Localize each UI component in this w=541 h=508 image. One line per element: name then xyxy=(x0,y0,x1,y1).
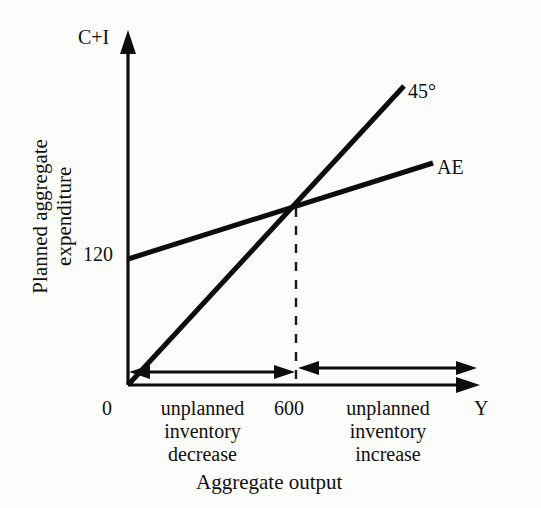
diagram-canvas xyxy=(0,0,541,508)
x-axis-symbol-label: Y xyxy=(474,397,488,420)
y-axis-symbol-label: C+I xyxy=(78,26,109,49)
ae-line xyxy=(128,163,433,259)
increase-note-line-3: increase xyxy=(318,443,458,466)
y-axis-title-line-2: expenditure xyxy=(52,101,76,331)
decrease-note-line-3: decrease xyxy=(140,443,265,466)
y-axis-title-line-1: Planned aggregate xyxy=(28,101,52,331)
forty-five-degree-line-label: 45° xyxy=(408,80,436,103)
y-axis xyxy=(120,30,136,385)
increase-note-line-2: inventory xyxy=(318,420,458,443)
x-tick-label-600: 600 xyxy=(274,397,304,420)
ae-line-label: AE xyxy=(437,156,464,179)
x-axis xyxy=(128,377,480,393)
unplanned-inventory-increase-arrow xyxy=(298,361,477,375)
y-axis-title: Planned aggregate expenditure xyxy=(28,101,77,331)
origin-label: 0 xyxy=(102,397,112,420)
unplanned-inventory-decrease-arrow xyxy=(129,365,295,379)
y-tick-label-120: 120 xyxy=(83,243,113,266)
x-axis-title: Aggregate output xyxy=(196,470,342,494)
forty-five-degree-line xyxy=(128,86,404,385)
decrease-note-line-2: inventory xyxy=(140,420,265,443)
aggregate-expenditure-diagram: C+I Y 45° AE 120 0 600 unplanned invento… xyxy=(0,0,541,508)
unplanned-inventory-decrease-label: unplanned inventory decrease xyxy=(140,397,265,467)
increase-note-line-1: unplanned xyxy=(318,397,458,420)
decrease-note-line-1: unplanned xyxy=(140,397,265,420)
unplanned-inventory-increase-label: unplanned inventory increase xyxy=(318,397,458,467)
